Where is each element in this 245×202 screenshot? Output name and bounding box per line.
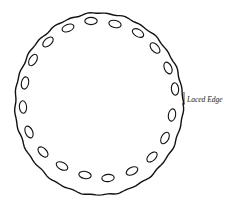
lace-hole: [108, 19, 122, 29]
lace-hole: [19, 101, 27, 114]
lace-hole: [101, 174, 114, 182]
lace-hole: [159, 131, 171, 145]
lace-hole: [148, 41, 162, 55]
lace-hole: [167, 108, 176, 121]
lace-hole: [125, 165, 139, 177]
lace-holes: [19, 17, 179, 182]
lace-hole: [85, 17, 97, 24]
lace-hole: [23, 125, 35, 139]
lace-hole: [27, 53, 39, 67]
lace-hole: [20, 76, 30, 90]
laced-edge-label: Laced Edge: [187, 95, 223, 104]
lace-hole: [131, 27, 145, 39]
lace-hole: [78, 170, 91, 179]
lace-hole: [55, 160, 69, 172]
circle-outer-edge: [15, 13, 184, 195]
lace-hole: [171, 82, 179, 95]
lace-hole: [36, 145, 50, 159]
lace-hole: [61, 22, 75, 33]
lace-hole: [145, 150, 159, 164]
lace-hole: [162, 61, 174, 75]
